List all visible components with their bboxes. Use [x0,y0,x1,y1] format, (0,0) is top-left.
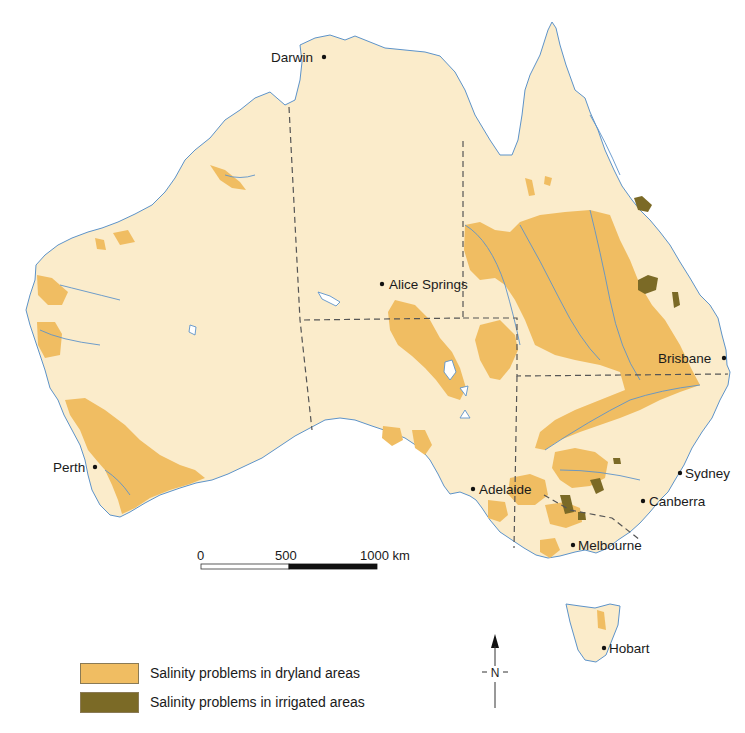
city-darwin: Darwin [271,50,313,65]
dryland-swatch [80,663,139,684]
legend-item-dryland: Salinity problems in dryland areas [80,660,365,686]
city-brisbane: Brisbane [658,351,711,366]
scale-tick-500: 500 [275,548,297,563]
scale-tick-0: 0 [197,548,204,563]
scale-bar: 0 500 1000 km [197,548,410,569]
australia-map: Darwin Alice Springs Brisbane Perth Sydn… [0,0,745,733]
city-perth: Perth [53,460,85,475]
legend-item-irrigated: Salinity problems in irrigated areas [80,689,365,715]
city-hobart: Hobart [609,641,650,656]
city-melbourne: Melbourne [578,538,642,553]
city-canberra: Canberra [649,494,706,509]
legend: Salinity problems in dryland areas Salin… [80,660,365,718]
city-adelaide: Adelaide [479,482,532,497]
irrigated-swatch [80,692,139,713]
city-alice-springs: Alice Springs [389,277,468,292]
scale-tick-1000: 1000 km [360,548,410,563]
north-label: N [491,666,500,680]
north-arrow-icon: N [478,632,512,712]
legend-label-irrigated: Salinity problems in irrigated areas [150,694,365,710]
city-sydney: Sydney [685,466,730,481]
legend-label-dryland: Salinity problems in dryland areas [150,665,360,681]
